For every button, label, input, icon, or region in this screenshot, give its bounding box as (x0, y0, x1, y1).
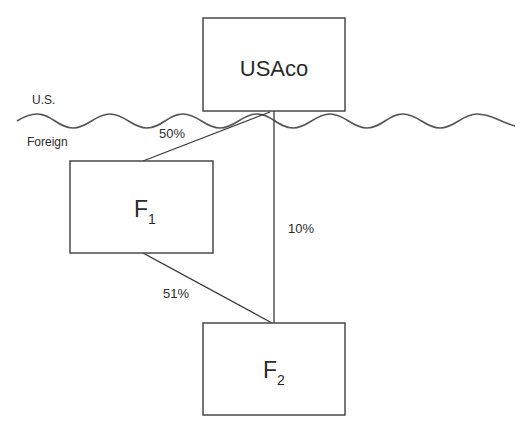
entity-usaco: USAco (203, 18, 345, 111)
us-region-label: U.S. (32, 93, 55, 107)
ownership-label-f1-f2: 51% (163, 286, 189, 301)
entity-f2: F2 (203, 323, 345, 415)
entity-f2-name: F (263, 357, 277, 383)
entity-usaco-label: USAco (240, 56, 308, 81)
entity-f1: F1 (70, 161, 213, 253)
ownership-diagram: U.S. Foreign 50% 10% 51% USAco F1 F2 (0, 0, 525, 429)
entity-f2-subscript: 2 (277, 372, 285, 388)
border-wave-line (17, 114, 515, 128)
ownership-label-usaco-f1: 50% (159, 126, 185, 141)
entity-f1-subscript: 1 (148, 211, 156, 227)
foreign-region-label: Foreign (27, 135, 68, 149)
ownership-label-usaco-f2: 10% (288, 221, 314, 236)
entity-f1-name: F (134, 196, 148, 222)
